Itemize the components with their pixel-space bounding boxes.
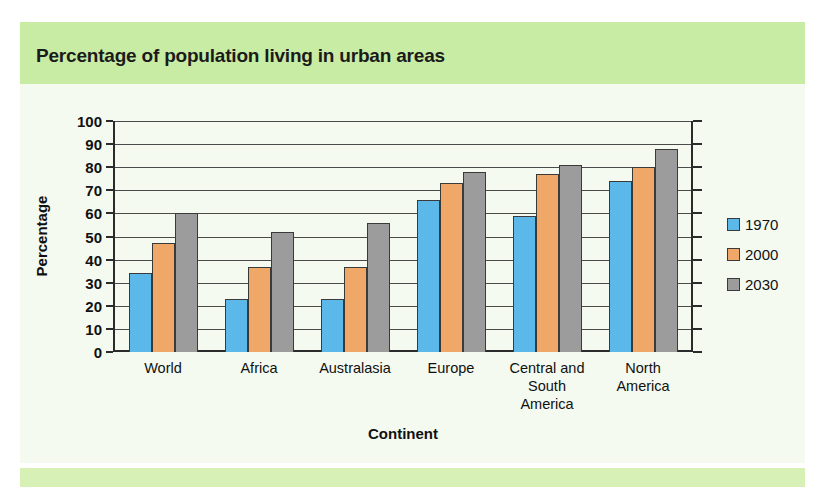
right-tick-mark <box>693 120 702 122</box>
page-canvas: Percentage of population living in urban… <box>0 0 823 487</box>
y-axis-tick-label: 10 <box>62 320 102 337</box>
y-axis-tick-label: 0 <box>62 344 102 361</box>
y-tick-mark <box>106 143 113 145</box>
y-tick-mark <box>106 351 113 353</box>
y-tick-mark <box>106 282 113 284</box>
bar <box>559 165 582 352</box>
bar-group <box>307 121 403 352</box>
right-tick-mark <box>693 212 702 214</box>
legend-swatch-icon <box>727 248 740 261</box>
y-tick-mark <box>106 212 113 214</box>
y-tick-mark <box>106 120 113 122</box>
y-tick-mark <box>106 328 113 330</box>
right-tick-mark <box>693 305 702 307</box>
y-axis-tick-label: 100 <box>62 113 102 130</box>
y-tick-mark <box>106 236 113 238</box>
legend-label: 2030 <box>745 276 778 293</box>
legend-swatch-icon <box>727 278 740 291</box>
bar <box>513 216 536 352</box>
bar-group <box>595 121 691 352</box>
bar-group <box>499 121 595 352</box>
legend-swatch-icon <box>727 218 740 231</box>
right-tick-mark <box>693 166 702 168</box>
bar <box>321 299 344 352</box>
bar <box>248 267 271 352</box>
y-axis-tick-label: 30 <box>62 274 102 291</box>
bar <box>271 232 294 352</box>
x-axis-category-label: World <box>115 359 211 413</box>
y-axis-title: Percentage <box>33 196 50 277</box>
x-axis-category-label: Europe <box>403 359 499 413</box>
y-tick-mark <box>106 189 113 191</box>
x-axis-category-label: North America <box>595 359 691 413</box>
legend-item[interactable]: 2000 <box>727 246 807 263</box>
x-axis-category-labels: WorldAfricaAustralasiaEuropeCentral and … <box>115 359 691 413</box>
legend-label: 1970 <box>745 216 778 233</box>
x-axis-category-label: Australasia <box>307 359 403 413</box>
legend-item[interactable]: 2030 <box>727 276 807 293</box>
x-axis-category-label: Africa <box>211 359 307 413</box>
bar <box>344 267 367 352</box>
x-axis-category-label: Central and South America <box>499 359 595 413</box>
bar-chart: Percentage 1009080706050403020100 WorldA… <box>0 0 823 487</box>
y-axis-tick-label: 60 <box>62 205 102 222</box>
bar <box>175 213 198 352</box>
right-tick-mark <box>693 236 702 238</box>
right-tick-mark <box>693 259 702 261</box>
y-tick-mark <box>106 305 113 307</box>
y-axis-tick-label: 70 <box>62 182 102 199</box>
y-axis-tick-label: 50 <box>62 228 102 245</box>
right-tick-mark <box>693 189 702 191</box>
bar <box>417 200 440 352</box>
y-axis-tick-label: 80 <box>62 159 102 176</box>
bar <box>536 174 559 352</box>
legend-label: 2000 <box>745 246 778 263</box>
bar <box>440 183 463 352</box>
bar <box>152 243 175 352</box>
bar-group <box>115 121 211 352</box>
right-tick-mark <box>693 282 702 284</box>
y-axis-tick-label: 20 <box>62 297 102 314</box>
bar <box>129 273 152 352</box>
bar <box>609 181 632 352</box>
bar <box>463 172 486 352</box>
bar <box>225 299 248 352</box>
bar <box>632 167 655 352</box>
bar <box>367 223 390 352</box>
bar-group <box>211 121 307 352</box>
y-tick-mark <box>106 166 113 168</box>
y-axis-tick-label: 40 <box>62 251 102 268</box>
y-tick-mark <box>106 259 113 261</box>
bar <box>655 149 678 352</box>
y-axis-tick-label: 90 <box>62 136 102 153</box>
bar-group <box>403 121 499 352</box>
right-tick-mark <box>693 143 702 145</box>
right-tick-mark <box>693 351 702 353</box>
legend-item[interactable]: 1970 <box>727 216 807 233</box>
bar-groups <box>115 121 691 352</box>
x-axis-title: Continent <box>368 425 438 442</box>
chart-legend: 197020002030 <box>727 216 807 306</box>
right-tick-mark <box>693 328 702 330</box>
